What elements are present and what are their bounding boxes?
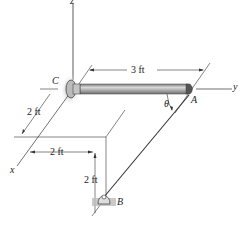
rod-dimension-arrow-left [89, 69, 94, 72]
theta-label: θ [164, 99, 169, 109]
theta-arrow [170, 106, 173, 111]
point-b-label: B [117, 197, 123, 207]
y-offset-label: 2 ft [50, 147, 64, 157]
rod [80, 84, 188, 94]
x-axis-label: x [10, 165, 14, 175]
z-axis-label: z [70, 0, 74, 6]
rod-dimension-arrow-right [199, 69, 204, 72]
y-axis-label: y [233, 82, 237, 92]
cable-ab [104, 95, 189, 197]
rod-end-cap [186, 84, 193, 94]
x-offset-label: 2 ft [27, 107, 41, 117]
point-a-label: A [191, 95, 197, 105]
y-dimension-arrow-right [88, 151, 93, 154]
z-dimension-arrow-top [94, 153, 97, 158]
x-dimension-arrow [22, 129, 25, 134]
y-dimension-arrow-left [30, 151, 35, 154]
base-line-diagonal [106, 110, 125, 137]
rod-length-label: 3 ft [131, 65, 145, 75]
b-pin [102, 195, 106, 199]
nut [73, 84, 80, 94]
z-offset-label: 2 ft [84, 175, 98, 185]
point-c-label: C [52, 76, 59, 86]
